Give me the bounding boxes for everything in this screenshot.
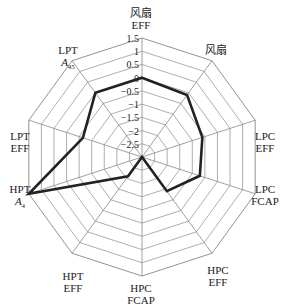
tick-label: −2 (128, 126, 139, 137)
axis-label: LPCEFF (245, 130, 282, 154)
axis-label: HPTEFF (53, 270, 93, 294)
tick-label: −1.5 (121, 112, 139, 123)
axis-label: LPTEFF (0, 130, 40, 154)
tick-label: −1 (128, 99, 139, 110)
axis-label: HPCEFF (198, 264, 238, 288)
axis-label: LPCFCAP (245, 183, 282, 207)
axis-label: 风扇 (196, 44, 236, 56)
tick-label: −0.5 (121, 86, 139, 97)
axis-label: HPTA4 (0, 183, 40, 212)
tick-label: 1 (134, 46, 139, 57)
axis-label: LPTA45 (48, 44, 88, 73)
axis-label: HPCFCAP (121, 282, 161, 306)
series-line (29, 78, 203, 194)
tick-label: 0.5 (127, 59, 140, 70)
tick-label: −2.5 (121, 139, 139, 150)
radar-chart: 1.510.50−0.5−1−1.5−2−2.5 (0, 0, 282, 306)
axis-label: 风扇EFF (121, 7, 161, 31)
tick-label: 1.5 (127, 33, 140, 44)
